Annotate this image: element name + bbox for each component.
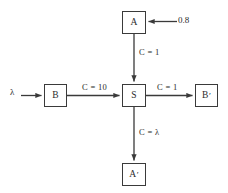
node-b-prime-label: B	[202, 91, 209, 101]
diagram-canvas: A B S B′ A′ λ 0.8 C = 1 C = 10 C = 1 C =…	[0, 0, 228, 193]
node-a-prime[interactable]: A′	[122, 163, 146, 186]
node-b-prime[interactable]: B′	[195, 84, 218, 107]
capacity-label-b-to-s: C = 10	[82, 83, 107, 92]
capacity-label-s-to-bprime: C = 1	[157, 83, 177, 92]
input-weight-label: 0.8	[178, 16, 189, 25]
capacity-label-s-to-aprime: C = λ	[139, 128, 159, 137]
node-s-label: S	[131, 91, 136, 101]
input-rate-label: λ	[10, 88, 14, 97]
node-a-prime-label: A	[129, 170, 136, 180]
diagram-edges	[0, 0, 228, 193]
capacity-label-a-to-s: C = 1	[139, 48, 159, 57]
node-a-label: A	[130, 18, 137, 28]
node-b[interactable]: B	[44, 84, 67, 107]
node-a[interactable]: A	[122, 11, 146, 34]
node-b-label: B	[52, 91, 59, 101]
node-s[interactable]: S	[122, 84, 146, 107]
